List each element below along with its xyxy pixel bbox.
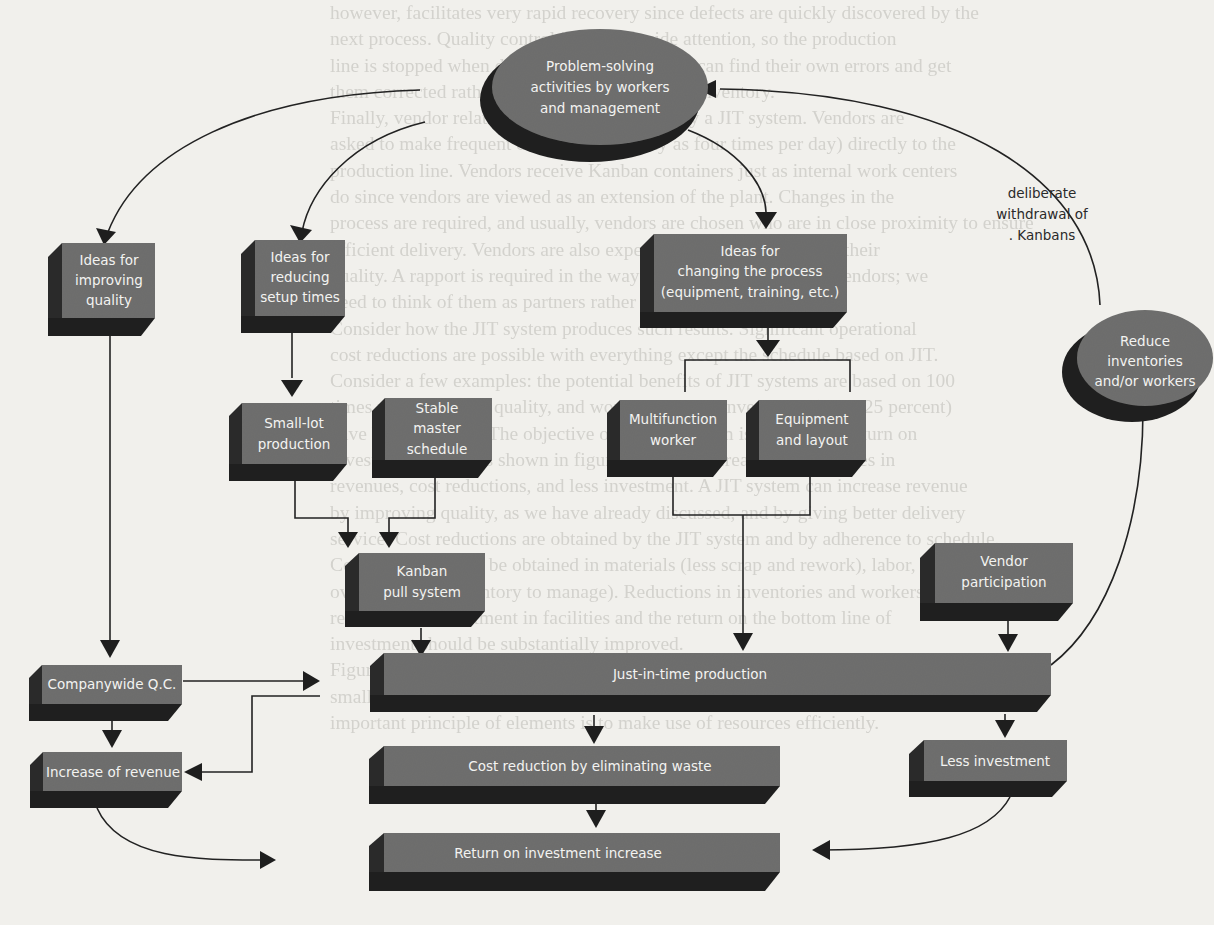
svg-text:Problem-solvingactivities by w: Problem-solvingactivities by workersand … [530, 58, 669, 116]
svg-text:deliberatewithdrawal of. Kanba: deliberatewithdrawal of. Kanbans [996, 185, 1089, 243]
jit-diagram: Problem-solvingactivities by workersand … [0, 0, 1214, 925]
svg-text:Companywide Q.C.: Companywide Q.C. [48, 676, 177, 692]
svg-text:Just-in-time production: Just-in-time production [612, 666, 767, 682]
box-less-investment: Less investment [909, 740, 1067, 797]
problem-solving-ellipse: Problem-solvingactivities by workersand … [480, 29, 708, 162]
box-vendor-participation: Vendorparticipation [920, 543, 1073, 621]
box-increase-of-revenue: Increase of revenue [30, 752, 182, 808]
box-stable-master-schedule: Stablemasterschedule [372, 398, 492, 478]
box-improving-quality: Ideas forimprovingquality [48, 243, 155, 336]
box-equipment-and-layout: Equipmentand layout [746, 400, 866, 477]
svg-text:Increase of revenue: Increase of revenue [46, 764, 180, 780]
box-multifunction-worker: Multifunctionworker [607, 400, 727, 477]
annotation-deliberate-withdrawal: deliberatewithdrawal of. Kanbans [996, 185, 1089, 243]
box-cost-reduction: Cost reduction by eliminating waste [369, 746, 780, 804]
svg-text:Cost reduction by eliminating: Cost reduction by eliminating waste [468, 758, 711, 774]
reduce-inventories-ellipse: Reduceinventoriesand/or workers [1062, 310, 1213, 422]
box-small-lot-production: Small-lotproduction [229, 403, 347, 481]
svg-text:Less investment: Less investment [940, 753, 1050, 769]
box-kanban-pull-system: Kanbanpull system [345, 553, 485, 627]
svg-text:Return on investment increase: Return on investment increase [454, 845, 662, 861]
box-just-in-time-production[interactable]: Just-in-time production [370, 653, 1051, 712]
box-reducing-setup-times: Ideas forreducingsetup times [241, 240, 345, 333]
svg-text:Stablemasterschedule: Stablemasterschedule [407, 400, 468, 457]
box-changing-process: Ideas forchanging the process(equipment,… [640, 234, 847, 328]
box-return-on-investment: Return on investment increase [369, 833, 780, 891]
svg-text:Ideas forreducingsetup times: Ideas forreducingsetup times [260, 249, 340, 305]
box-companywide-qc: Companywide Q.C. [29, 665, 182, 721]
